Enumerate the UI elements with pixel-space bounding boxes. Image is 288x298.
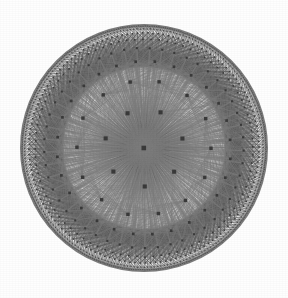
hyperbolic-disk-graph <box>0 0 288 298</box>
figure-root <box>0 0 288 298</box>
